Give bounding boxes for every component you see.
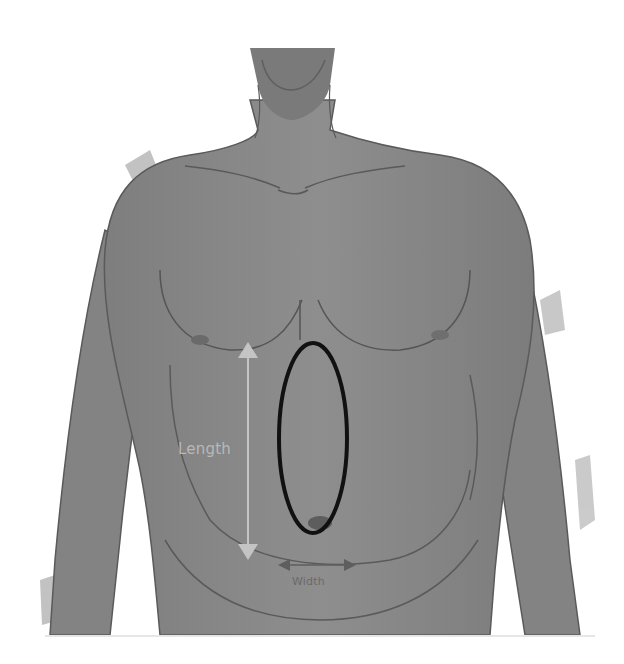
width-label: Width [292,575,325,588]
right-nipple [431,330,449,340]
length-label: Length [178,440,231,458]
torso [104,100,534,635]
left-nipple [191,335,209,345]
torso-illustration [0,0,624,664]
